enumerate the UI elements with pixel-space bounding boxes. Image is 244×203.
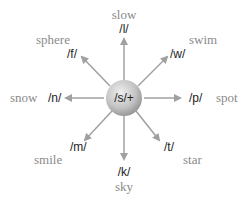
phoneme-k: /k/ bbox=[118, 165, 131, 179]
phoneme-f: /f/ bbox=[67, 47, 78, 61]
arrow-se bbox=[136, 111, 159, 140]
phoneme-w: /w/ bbox=[170, 47, 186, 61]
phoneme-t: /t/ bbox=[164, 140, 175, 154]
center-label: /s/+ bbox=[114, 91, 134, 105]
word-star: star bbox=[183, 152, 202, 167]
word-swim: swim bbox=[189, 32, 217, 47]
word-spot: spot bbox=[216, 90, 238, 105]
phoneme-n: /n/ bbox=[48, 91, 62, 105]
arrow-nw bbox=[82, 57, 110, 86]
arrow-ne bbox=[138, 57, 167, 86]
word-slow: slow bbox=[112, 7, 137, 22]
word-sphere: sphere bbox=[36, 32, 70, 47]
s-cluster-diagram: /s/+ slow /l/ swim /w/ /p/ spot /t/ star… bbox=[0, 0, 244, 203]
arrow-sw bbox=[85, 111, 112, 140]
word-sky: sky bbox=[115, 179, 134, 194]
phoneme-l: /l/ bbox=[119, 22, 129, 36]
phoneme-m: /m/ bbox=[70, 140, 87, 154]
word-smile: smile bbox=[34, 152, 62, 167]
word-snow: snow bbox=[10, 90, 38, 105]
phoneme-p: /p/ bbox=[189, 91, 203, 105]
